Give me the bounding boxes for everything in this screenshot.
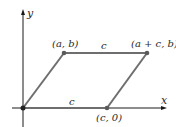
vertex-label-a-plus-c-b: (a + c, b) [131,39,176,49]
vertex-label-c-0: (c, 0) [96,113,122,123]
point-a-b [62,51,67,56]
edge-right [107,53,147,108]
y-axis-label: y [27,8,33,19]
point-c-0 [105,106,110,111]
parallelogram-diagram: y x (a, b) (a + c, b) (c, 0) c c [0,0,176,127]
edge-label-bottom: c [69,97,75,107]
y-axis-arrow-icon [21,9,25,15]
edge-left [23,53,64,108]
point-origin [21,106,26,111]
edge-label-top: c [101,41,107,51]
x-axis-label: x [161,95,167,106]
vertex-label-a-b: (a, b) [52,39,79,49]
point-a-plus-c-b [145,51,150,56]
